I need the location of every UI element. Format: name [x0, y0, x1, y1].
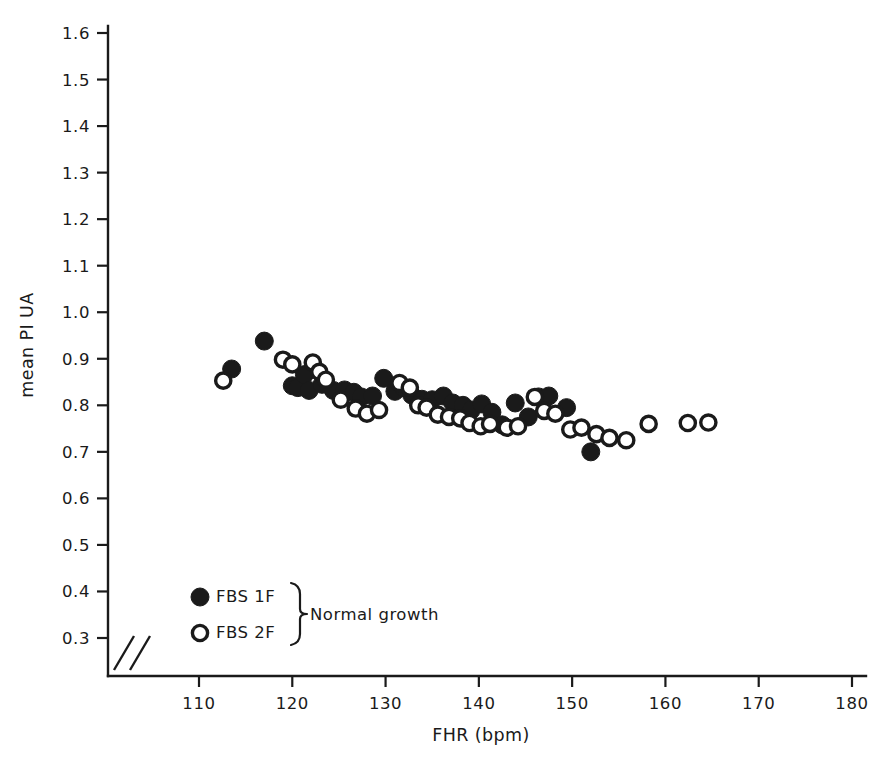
data-point [255, 332, 273, 350]
data-point [582, 443, 600, 461]
x-axis-title: FHR (bpm) [432, 725, 529, 745]
y-axis-tick-label: 0.9 [62, 350, 90, 369]
data-point [641, 416, 656, 431]
data-point [510, 419, 525, 434]
x-axis-tick-label: 140 [462, 694, 495, 713]
axes-group [108, 26, 866, 676]
x-axis-tick-label: 170 [742, 694, 775, 713]
y-axis-tick-label: 1.5 [62, 71, 90, 90]
axis-break-mark [114, 636, 134, 670]
y-axis-tick-label: 0.4 [62, 582, 90, 601]
ticks-group [97, 33, 852, 687]
y-axis-tick-label: 0.8 [62, 396, 90, 415]
tick-labels-group: 0.30.40.50.60.70.80.91.01.11.21.31.41.51… [62, 24, 869, 713]
data-points-group [216, 332, 716, 461]
y-axis-tick-label: 1.1 [62, 257, 90, 276]
legend-marker-open-circle [192, 625, 207, 640]
legend-label: FBS 2F [216, 623, 275, 642]
y-axis-title: mean PI UA [17, 292, 37, 397]
y-axis-tick-label: 0.7 [62, 443, 90, 462]
data-point [506, 394, 524, 412]
data-point [216, 373, 231, 388]
data-point [548, 406, 563, 421]
y-axis-tick-label: 1.0 [62, 303, 90, 322]
data-point [619, 433, 634, 448]
x-axis-tick-label: 180 [835, 694, 868, 713]
data-point [602, 430, 617, 445]
legend-label: FBS 1F [216, 587, 275, 606]
data-point [680, 415, 695, 430]
data-point [371, 402, 386, 417]
x-axis-tick-label: 110 [182, 694, 215, 713]
data-point [402, 380, 417, 395]
data-point [527, 389, 542, 404]
x-axis-tick-label: 120 [276, 694, 309, 713]
y-axis-tick-label: 1.3 [62, 164, 90, 183]
y-axis-tick-label: 1.2 [62, 210, 90, 229]
axis-break-mark [130, 636, 150, 670]
y-axis-tick-label: 0.3 [62, 629, 90, 648]
x-axis-tick-label: 150 [555, 694, 588, 713]
y-axis-tick-label: 1.4 [62, 117, 90, 136]
legend-group: FBS 1FFBS 2FNormal growth [191, 583, 439, 645]
data-point [333, 392, 348, 407]
data-point [482, 416, 497, 431]
data-point [318, 372, 333, 387]
data-point [285, 357, 300, 372]
y-axis-tick-label: 1.6 [62, 24, 90, 43]
data-point [701, 415, 716, 430]
y-axis-tick-label: 0.6 [62, 489, 90, 508]
data-point [574, 420, 589, 435]
plot-canvas: 0.30.40.50.60.70.80.91.01.11.21.31.41.51… [0, 0, 885, 762]
y-axis-tick-label: 0.5 [62, 536, 90, 555]
legend-brace-label: Normal growth [310, 605, 439, 624]
x-axis-tick-label: 130 [369, 694, 402, 713]
legend-marker-filled-circle [191, 588, 209, 606]
x-axis-tick-label: 160 [649, 694, 682, 713]
legend-brace [291, 583, 307, 645]
scatter-plot-figure: 0.30.40.50.60.70.80.91.01.11.21.31.41.51… [0, 0, 885, 762]
